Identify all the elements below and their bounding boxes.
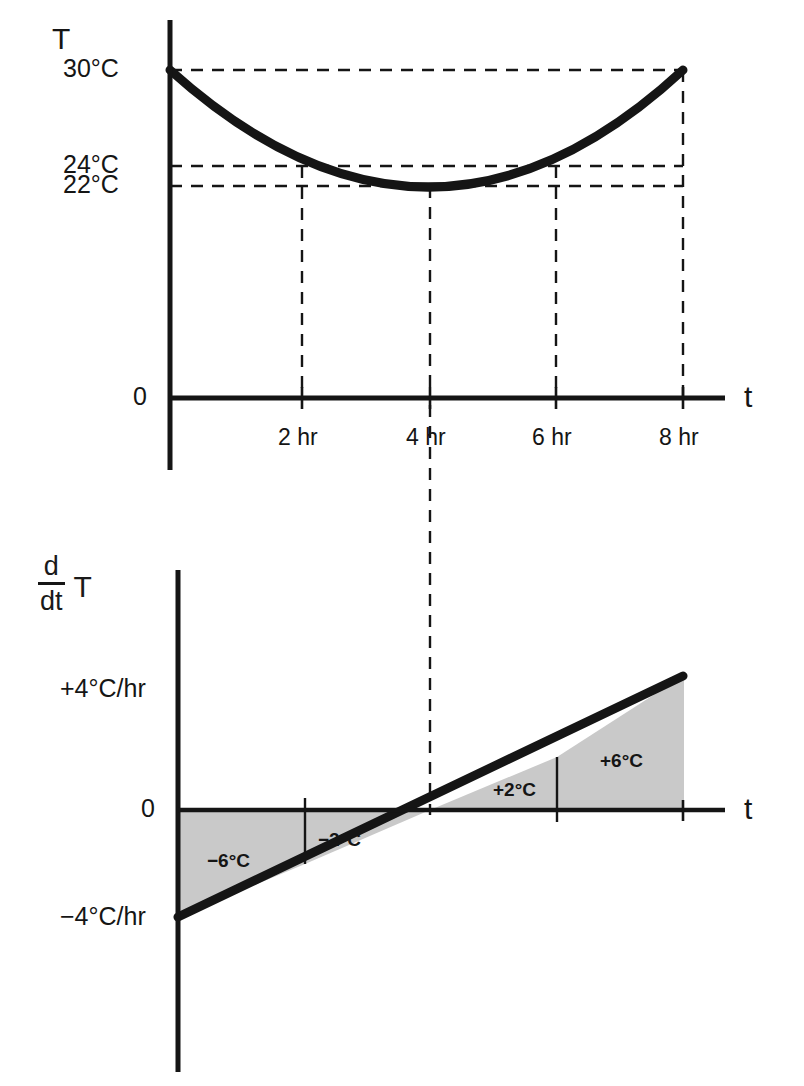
bottom-chart-x-axis-label: t [744, 794, 752, 824]
top-chart-ytick-22C: 22°C [63, 172, 119, 197]
bottom-chart-y-axis-label: d dt T [38, 552, 92, 616]
area-label-plus6: +6°C [600, 751, 643, 770]
top-chart-xtick-6hr: 6 hr [532, 426, 572, 449]
bottom-chart-ytick-plus4: +4°C/hr [60, 676, 146, 701]
top-chart-xtick-8hr: 8 hr [659, 426, 699, 449]
top-chart [170, 20, 725, 470]
top-chart-x-axis-label: t [744, 382, 752, 412]
area-label-minus6: −6°C [207, 851, 250, 870]
bottom-chart-ytick-minus4: −4°C/hr [60, 904, 146, 929]
top-chart-origin-label: 0 [133, 384, 147, 409]
top-chart-ytick-30C: 30°C [63, 56, 119, 81]
fraction-bar [38, 582, 65, 585]
derivative-fraction: d dt [38, 552, 65, 616]
bottom-chart [178, 570, 725, 1072]
area-label-plus2: +2°C [493, 780, 536, 799]
top-chart-y-axis-label: T [52, 24, 70, 54]
temperature-curve [170, 70, 683, 187]
fraction-numerator: d [42, 552, 61, 580]
bottom-chart-ytick-zero: 0 [141, 796, 155, 821]
area-label-minus2: −2°C [318, 830, 361, 849]
top-chart-xtick-2hr: 2 hr [278, 426, 318, 449]
fraction-denominator: dt [38, 587, 65, 615]
fraction-variable: T [74, 564, 92, 604]
shaded-region-plus6 [557, 676, 683, 810]
top-chart-xtick-4hr: 4 hr [406, 426, 446, 449]
